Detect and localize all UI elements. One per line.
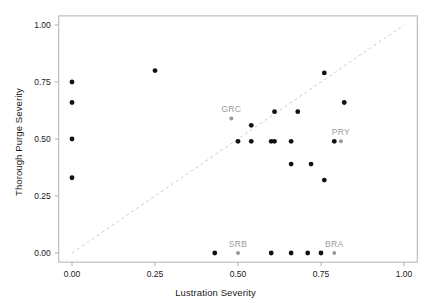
y-tick-label: 0.00 bbox=[17, 248, 51, 258]
y-tick-label: 1.00 bbox=[17, 20, 51, 30]
data-point bbox=[289, 162, 294, 167]
data-point bbox=[249, 139, 254, 144]
scatter-plot-figure: 0.000.250.500.751.00 0.000.250.500.751.0… bbox=[0, 0, 431, 303]
data-point-highlighted bbox=[236, 251, 240, 255]
data-point bbox=[249, 123, 254, 128]
data-point bbox=[322, 70, 327, 75]
data-point bbox=[70, 175, 75, 180]
x-tick-label: 0.00 bbox=[64, 269, 81, 279]
data-points-group bbox=[70, 68, 347, 255]
data-point bbox=[70, 100, 75, 105]
data-point bbox=[289, 139, 294, 144]
data-point-label: GRC bbox=[221, 104, 241, 114]
data-point bbox=[153, 68, 158, 73]
data-point bbox=[319, 251, 324, 256]
data-point bbox=[269, 251, 274, 256]
data-point bbox=[212, 251, 217, 256]
data-point bbox=[272, 139, 277, 144]
data-point-label: PRY bbox=[332, 127, 350, 137]
y-axis-title-wrapper: Thorough Purge Severity bbox=[8, 62, 26, 222]
data-point bbox=[236, 139, 241, 144]
axis-tick-marks bbox=[55, 25, 404, 266]
data-point bbox=[332, 139, 337, 144]
data-point bbox=[272, 109, 277, 114]
x-axis-title: Lustration Severity bbox=[0, 287, 431, 298]
data-point bbox=[322, 178, 327, 183]
data-point bbox=[289, 251, 294, 256]
data-point bbox=[295, 109, 300, 114]
x-tick-label: 0.75 bbox=[313, 269, 330, 279]
data-point bbox=[305, 251, 310, 256]
data-point-label: SRB bbox=[229, 239, 247, 249]
x-tick-label: 0.25 bbox=[147, 269, 164, 279]
data-point bbox=[342, 100, 347, 105]
plot-canvas bbox=[0, 0, 431, 303]
x-tick-label: 0.50 bbox=[230, 269, 247, 279]
data-point-highlighted bbox=[332, 251, 336, 255]
data-point-label: BRA bbox=[325, 239, 343, 249]
data-point bbox=[70, 137, 75, 142]
y-axis-title: Thorough Purge Severity bbox=[13, 88, 24, 196]
data-point bbox=[70, 80, 75, 85]
x-tick-label: 1.00 bbox=[396, 269, 413, 279]
data-point-highlighted bbox=[229, 116, 233, 120]
data-point-highlighted bbox=[339, 139, 343, 143]
data-point bbox=[309, 162, 314, 167]
